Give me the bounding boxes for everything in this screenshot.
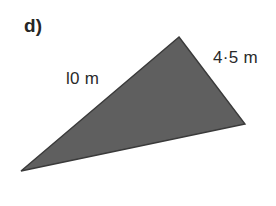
figure-container: d) l0 m 4·5 m [0,0,276,206]
side-label-left: l0 m [66,70,99,87]
side-label-right: 4·5 m [213,49,258,66]
part-label: d) [24,16,42,35]
triangle-shape [21,37,245,171]
